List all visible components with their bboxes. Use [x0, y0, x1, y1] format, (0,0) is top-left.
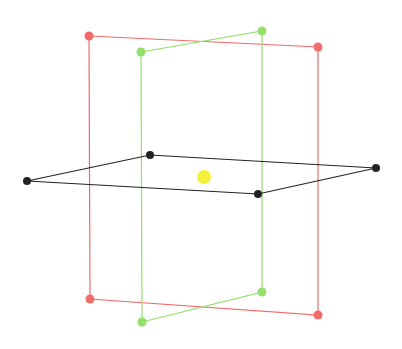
yellow-center-point — [197, 170, 211, 184]
diagram-canvas — [0, 0, 402, 349]
green-vertical-plane-vertex-1 — [258, 27, 267, 36]
green-vertical-plane-vertex-0 — [137, 48, 146, 57]
red-vertical-plane-vertex-1 — [314, 43, 323, 52]
black-horizontal-plane-vertex-1 — [146, 151, 154, 159]
red-vertical-plane-vertex-0 — [85, 32, 94, 41]
black-horizontal-plane-vertex-3 — [254, 190, 262, 198]
green-vertical-plane-vertex-2 — [258, 288, 267, 297]
red-vertical-plane-vertex-2 — [314, 311, 323, 320]
red-vertical-plane-vertex-3 — [86, 295, 95, 304]
black-horizontal-plane-vertex-0 — [23, 177, 31, 185]
planes-diagram — [0, 0, 402, 349]
black-horizontal-plane-vertex-2 — [372, 164, 380, 172]
green-vertical-plane-vertex-3 — [138, 318, 147, 327]
